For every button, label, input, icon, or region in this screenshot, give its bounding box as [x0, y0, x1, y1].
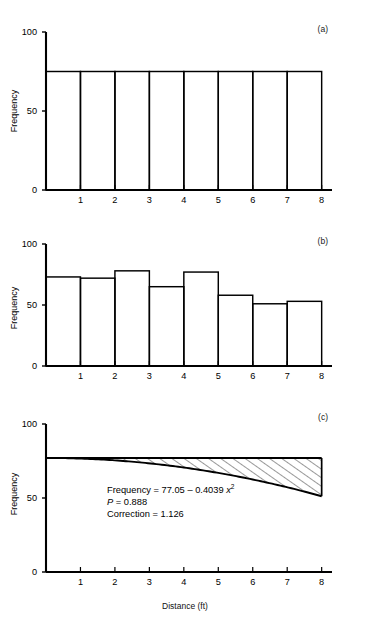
histogram-bar — [253, 72, 287, 191]
annotation-equation-lead: Frequency = 77.05 — [107, 485, 187, 495]
panel-b: 050100 12345678 Frequency (b) — [0, 214, 370, 390]
x-tick-label: 6 — [250, 371, 255, 381]
x-tick-label: 5 — [216, 371, 221, 381]
panel-b-y-tick-labels: 050100 — [22, 239, 37, 371]
panel-a-y-tick-labels: 050100 — [22, 27, 37, 195]
x-tick-label: 4 — [181, 371, 186, 381]
histogram-bar — [218, 295, 252, 366]
panel-a-chart: 050100 12345678 Frequency — [0, 14, 370, 214]
x-tick-label: 3 — [147, 195, 152, 205]
histogram-bar — [253, 304, 287, 366]
x-tick-label: 8 — [319, 371, 324, 381]
panel-a-bars — [46, 72, 322, 191]
y-tick-label: 100 — [22, 239, 37, 249]
y-tick-label: 0 — [32, 361, 37, 371]
annotation-pvalue-value: = 0.888 — [113, 497, 147, 507]
y-tick-label: 50 — [27, 106, 37, 116]
x-tick-label: 8 — [319, 577, 324, 587]
x-tick-label: 4 — [181, 195, 186, 205]
y-tick-label: 50 — [27, 493, 37, 503]
histogram-bar — [46, 72, 80, 191]
panel-label-c: (c) — [318, 412, 328, 422]
panel-c-x-tick-labels: 12345678 — [78, 577, 324, 587]
histogram-bar — [46, 277, 80, 366]
x-tick-label: 3 — [147, 371, 152, 381]
x-tick-label: 2 — [112, 195, 117, 205]
y-tick-label: 0 — [32, 567, 37, 577]
figure-footer-caption — [0, 625, 370, 636]
annotation-equation-exponent: 2 — [231, 483, 235, 490]
histogram-bar — [184, 272, 218, 366]
panel-b-axes — [46, 244, 332, 366]
histogram-bar — [287, 72, 321, 191]
annotation-correction-line: Correction = 1.126 — [107, 509, 184, 519]
x-tick-label: 6 — [250, 577, 255, 587]
x-tick-label: 7 — [285, 195, 290, 205]
y-tick-label: 50 — [27, 300, 37, 310]
panel-b-chart: 050100 12345678 Frequency — [0, 214, 370, 390]
histogram-bar — [80, 72, 114, 191]
x-tick-label: 3 — [147, 577, 152, 587]
x-tick-label: 7 — [285, 371, 290, 381]
panel-b-x-tick-labels: 12345678 — [78, 371, 324, 381]
histogram-bar — [218, 72, 252, 191]
panel-c-annotation: Frequency = 77.05 – 0.4039 x2 P = 0.888 … — [107, 483, 235, 519]
histogram-bar — [149, 72, 183, 191]
y-tick-label: 100 — [22, 419, 37, 429]
histogram-bar — [115, 72, 149, 191]
annotation-pvalue-line: P = 0.888 — [107, 497, 147, 507]
x-tick-label: 5 — [216, 195, 221, 205]
panel-a-x-tick-labels: 12345678 — [78, 195, 324, 205]
running-header — [0, 0, 370, 6]
panel-a-axis-label-y: Frequency — [9, 89, 19, 132]
panel-c-axes — [46, 424, 332, 572]
panel-b-axis-label-y: Frequency — [9, 286, 19, 329]
x-tick-label: 4 — [181, 577, 186, 587]
panel-label-b: (b) — [318, 236, 328, 246]
y-tick-label: 100 — [22, 27, 37, 37]
x-tick-label: 5 — [216, 577, 221, 587]
panel-c-y-tick-labels: 050100 — [22, 419, 37, 577]
x-tick-label: 6 — [250, 195, 255, 205]
panel-label-a: (a) — [318, 24, 328, 34]
histogram-bar — [287, 301, 321, 366]
x-tick-label: 1 — [78, 371, 83, 381]
panel-c-chart: 050100 12345678 Frequency Frequency = 77… — [0, 390, 370, 600]
x-tick-label: 2 — [112, 577, 117, 587]
x-tick-label: 1 — [78, 577, 83, 587]
panel-a-axes — [46, 32, 332, 190]
x-tick-label: 8 — [319, 195, 324, 205]
annotation-equation-coef: 0.4039 — [193, 485, 227, 495]
panel-a: 050100 12345678 Frequency (a) — [0, 14, 370, 214]
axis-label-x: Distance (ft) — [0, 601, 370, 611]
panel-b-bars — [46, 271, 322, 366]
x-tick-label: 1 — [78, 195, 83, 205]
histogram-bar — [184, 72, 218, 191]
x-tick-label: 2 — [112, 371, 117, 381]
panel-c: 050100 12345678 Frequency Frequency = 77… — [0, 390, 370, 600]
histogram-bar — [149, 287, 183, 366]
y-tick-label: 0 — [32, 185, 37, 195]
annotation-equation-line: Frequency = 77.05 – 0.4039 x2 — [107, 483, 235, 495]
histogram-bar — [115, 271, 149, 366]
panel-c-axis-label-y: Frequency — [9, 472, 19, 515]
x-tick-label: 7 — [285, 577, 290, 587]
histogram-bar — [80, 278, 114, 366]
